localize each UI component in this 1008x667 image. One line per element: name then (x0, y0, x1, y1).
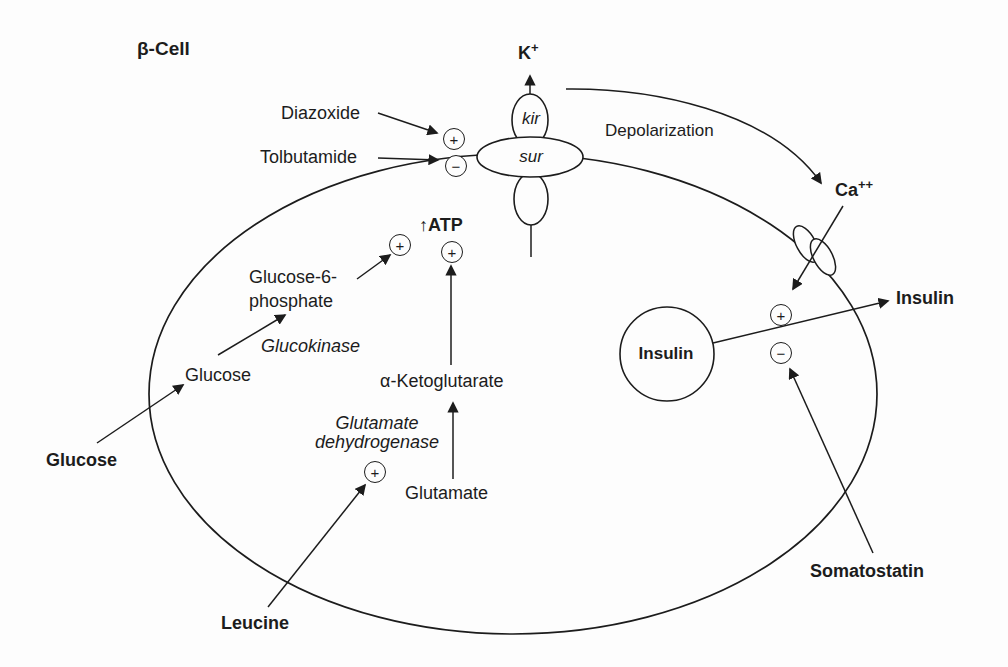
insulin-vesicle-label: Insulin (639, 344, 694, 364)
glucose-intracellular-label: Glucose (185, 365, 251, 386)
glucose6phosphate-line2: phosphate (249, 289, 337, 313)
somatostatin-inhibition-minus-sign: − (770, 342, 792, 364)
glutamate-label: Glutamate (405, 483, 488, 504)
tolbutamide-minus-sign: − (445, 155, 467, 177)
potassium-label: K+ (518, 41, 539, 64)
glucokinase-label: Glucokinase (261, 336, 360, 357)
depolarization-label: Depolarization (605, 121, 714, 141)
potassium-symbol: K (518, 43, 531, 63)
glutamate-dehydrogenase-line2: dehydrogenase (315, 433, 439, 452)
glutamate-dehydrogenase-plus-sign: + (364, 461, 386, 483)
cell-title: β-Cell (137, 38, 190, 60)
glucose6phosphate-label: Glucose-6- phosphate (249, 265, 337, 313)
g6p-to-atp-arrow (357, 255, 390, 279)
diazoxide-label: Diazoxide (281, 103, 360, 124)
somatostatin-label: Somatostatin (810, 561, 924, 582)
somatostatin-arrow (790, 369, 873, 553)
channel-lower-subunit-shape (514, 173, 548, 225)
beta-cell-diagram: β-Cell Diazoxide Tolbutamide K+ kir sur … (0, 0, 1008, 667)
diazoxide-plus-sign: + (443, 128, 465, 150)
calcium-symbol: Ca (835, 180, 858, 200)
glutamate-dehydrogenase-line1: Glutamate (315, 414, 439, 433)
glucose-extracellular-label: Glucose (46, 450, 117, 471)
leucine-label: Leucine (221, 613, 289, 634)
tolbutamide-arrow (378, 158, 438, 160)
insulin-secretion-arrow (713, 301, 888, 343)
diazoxide-arrow (378, 113, 437, 133)
tolbutamide-label: Tolbutamide (260, 147, 357, 168)
insulin-secreted-label: Insulin (896, 288, 954, 309)
calcium-stimulation-plus-sign: + (770, 304, 792, 326)
glucose-uptake-arrow (97, 385, 183, 443)
atp-plus-sign: + (441, 241, 463, 263)
calcium-charge: ++ (858, 177, 873, 192)
kir-label: kir (522, 109, 540, 129)
cell-membrane (149, 154, 877, 634)
alpha-ketoglutarate-label: α-Ketoglutarate (380, 371, 503, 392)
sur-label: sur (519, 147, 543, 167)
glutamate-dehydrogenase-label: Glutamate dehydrogenase (315, 414, 439, 452)
glucose6phosphate-line1: Glucose-6- (249, 265, 337, 289)
g6p-plus-sign: + (389, 234, 411, 256)
atp-label: ↑ATP (419, 215, 463, 236)
leucine-arrow (268, 485, 365, 607)
calcium-label: Ca++ (835, 178, 873, 201)
potassium-charge: + (531, 40, 539, 55)
